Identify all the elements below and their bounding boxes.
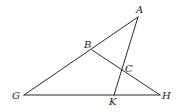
segment-AK — [114, 17, 138, 95]
point-labels: A B C G H K — [12, 4, 171, 107]
label-H: H — [161, 90, 171, 101]
label-A: A — [135, 4, 143, 15]
segment-GA — [24, 17, 138, 95]
label-C: C — [125, 63, 133, 74]
segments — [24, 17, 160, 95]
geometry-diagram: A B C G H K — [0, 0, 178, 112]
label-K: K — [108, 96, 117, 107]
label-G: G — [12, 90, 20, 101]
label-B: B — [83, 39, 91, 50]
